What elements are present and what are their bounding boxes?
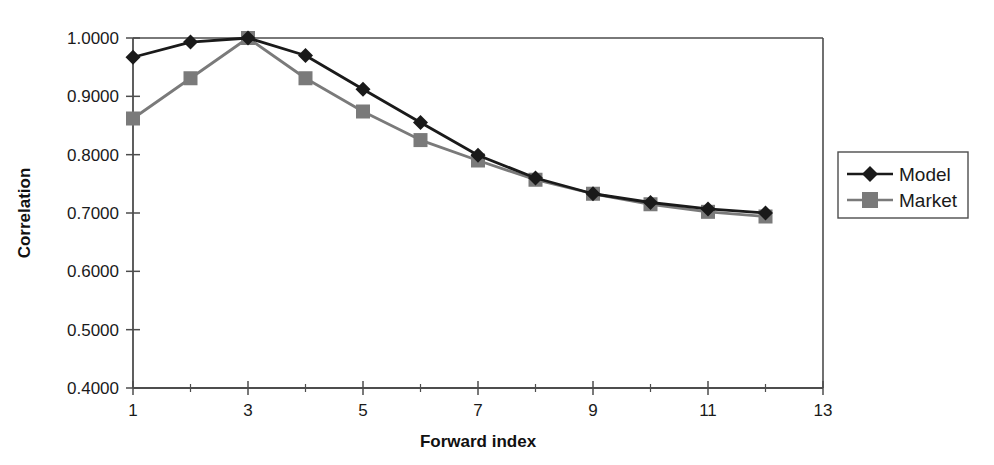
legend-item-market: Market	[847, 190, 958, 211]
y-tick-label: 1.0000	[67, 29, 119, 48]
x-axis-title: Forward index	[420, 432, 537, 451]
data-point-marker	[356, 105, 370, 119]
y-tick-label: 0.7000	[67, 204, 119, 223]
x-tick-label: 5	[358, 401, 367, 420]
legend-label-market: Market	[899, 190, 958, 211]
x-tick-label: 1	[128, 401, 137, 420]
legend-label-model: Model	[899, 164, 951, 185]
data-point-marker	[184, 71, 198, 85]
correlation-line-chart: 0.40000.50000.60000.70000.80000.90001.00…	[0, 0, 994, 465]
data-point-marker	[414, 133, 428, 147]
square-icon	[862, 192, 878, 208]
x-tick-label: 11	[699, 401, 717, 420]
y-tick-label: 0.6000	[67, 262, 119, 281]
y-tick-label: 0.8000	[67, 146, 119, 165]
chart-background	[0, 0, 994, 465]
y-tick-label: 0.5000	[67, 321, 119, 340]
x-tick-label: 3	[243, 401, 252, 420]
x-tick-label: 7	[473, 401, 482, 420]
data-point-marker	[126, 112, 140, 126]
y-tick-label: 0.9000	[67, 87, 119, 106]
x-tick-label: 13	[814, 401, 833, 420]
y-tick-label: 0.4000	[67, 379, 119, 398]
data-point-marker	[299, 71, 313, 85]
x-tick-label: 9	[588, 401, 597, 420]
y-axis-title: Correlation	[15, 168, 34, 259]
legend: Model Market	[838, 152, 968, 218]
